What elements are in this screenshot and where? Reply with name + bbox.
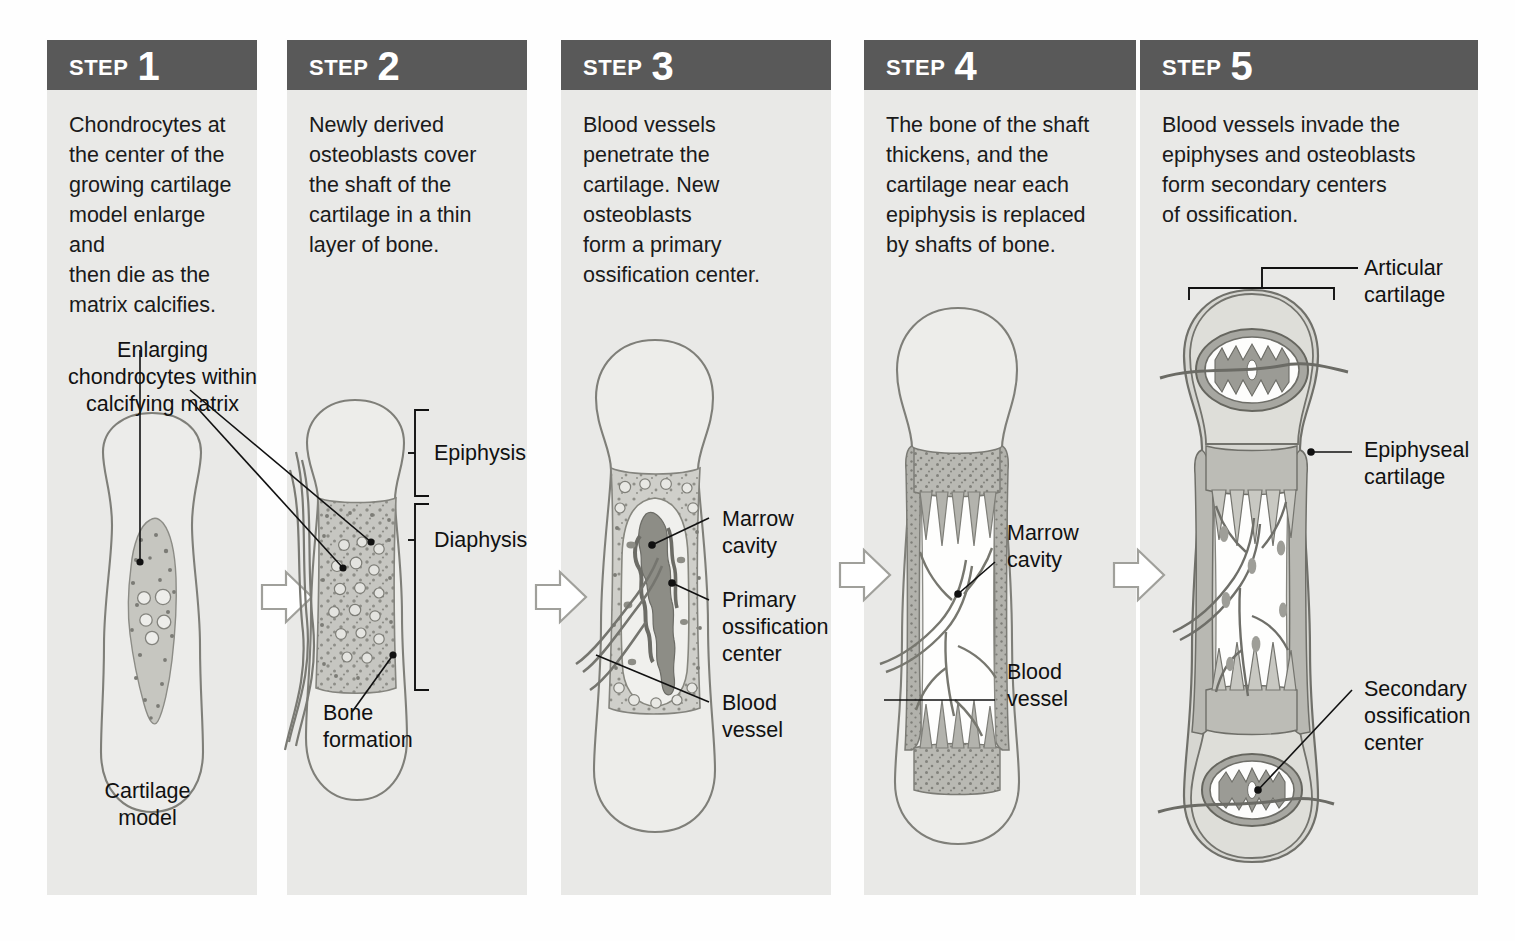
label-blood-vessel-step4: Blood vessel — [1007, 659, 1147, 713]
figure-stage: STEP 1 Chondrocytes at the center of the… — [0, 0, 1515, 941]
label-marrow-cavity-step4: Marrow cavity — [1007, 520, 1147, 574]
label-bone-formation: Bone formation — [323, 700, 473, 754]
label-enlarging-chondrocytes: Enlarging chondrocytes within calcifying… — [40, 337, 285, 418]
label-diaphysis: Diaphysis — [434, 527, 554, 554]
label-articular-cartilage: Articular cartilage — [1364, 255, 1514, 309]
label-primary-ossification-center: Primary ossification center — [722, 587, 872, 668]
label-epiphyseal-cartilage: Epiphyseal cartilage — [1364, 437, 1514, 491]
label-cartilage-model: Cartilage model — [70, 778, 225, 832]
label-epiphysis: Epiphysis — [434, 440, 554, 467]
label-blood-vessel-step3: Blood vessel — [722, 690, 862, 744]
step-3-bone-illustration — [576, 340, 715, 832]
cartilage-model-illustration — [101, 350, 203, 812]
arrow-step-2-to-3 — [536, 572, 586, 622]
label-secondary-ossification-center: Secondary ossification center — [1364, 676, 1514, 757]
step-4-bone-illustration — [880, 308, 1019, 844]
secondary-center-bottom — [1202, 754, 1302, 826]
illustration-layer — [0, 0, 1515, 941]
step-5-bone-illustration — [1158, 268, 1358, 862]
label-marrow-cavity-step3: Marrow cavity — [722, 506, 862, 560]
